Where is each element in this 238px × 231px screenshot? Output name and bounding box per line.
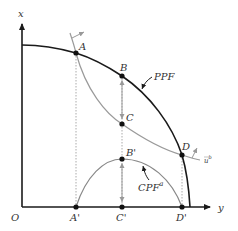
ppf-curve <box>22 45 190 207</box>
label-b-prime: B' <box>125 147 136 158</box>
label-a-prime: A' <box>69 212 80 223</box>
label-d: D <box>181 141 190 152</box>
point-b-prime <box>119 156 124 161</box>
label-c-prime: C' <box>116 212 126 223</box>
label-a: A <box>78 41 86 52</box>
origin-label: O <box>11 212 19 223</box>
cpf-label: CPFa <box>138 180 164 193</box>
cpf-label-superscript: a <box>159 180 163 188</box>
improvement-arrow-right <box>192 148 197 158</box>
point-d-prime <box>179 204 184 209</box>
improvement-arrow-top <box>72 32 84 38</box>
ppf-pointer-arrow <box>142 77 152 89</box>
indifference-curve <box>70 33 200 160</box>
cpf-label-main: CPF <box>138 182 160 193</box>
vertical-axis-label: x <box>18 8 24 19</box>
point-c <box>119 121 124 126</box>
label-b: B <box>119 62 127 73</box>
point-d <box>179 152 184 157</box>
label-c: C <box>126 112 134 123</box>
point-a-prime <box>73 204 78 209</box>
ppf-cpf-diagram: x y O A B C D B' A' C' D' PPF CPFa ub <box>0 0 238 231</box>
label-d-prime: D' <box>175 212 187 223</box>
cpf-curve <box>76 159 182 207</box>
indifference-label: ub <box>204 154 212 165</box>
cpf-pointer-arrow <box>143 166 149 180</box>
horizontal-axis-label: y <box>217 202 224 213</box>
point-a <box>73 50 78 55</box>
ppf-label: PPF <box>153 71 175 82</box>
point-c-prime <box>119 204 124 209</box>
point-b <box>119 73 124 78</box>
